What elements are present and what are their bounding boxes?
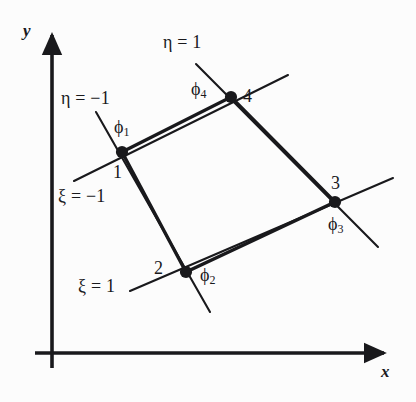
phi-subscript-3: 3 — [337, 222, 343, 236]
phi-label-1: ϕ1 — [114, 118, 129, 138]
element-nodes — [116, 91, 341, 278]
node-number-2: 2 — [154, 259, 163, 277]
xi-plus-one-line — [130, 178, 393, 291]
phi-label-4: ϕ4 — [191, 80, 206, 100]
phi-subscript-2: 2 — [209, 273, 215, 287]
figure-canvas: y x η = −1 ξ = −1 η = 1 ξ = 1 1 2 3 4 ϕ1… — [0, 0, 416, 402]
node-number-4: 4 — [243, 87, 252, 105]
node-number-3: 3 — [331, 174, 340, 192]
phi-subscript-4: 4 — [200, 87, 206, 101]
eta-minus-one-label: η = −1 — [61, 89, 110, 107]
element-outline — [122, 97, 335, 272]
y-axis-label: y — [23, 22, 31, 39]
node-marker-2 — [180, 266, 192, 278]
node-marker-1 — [116, 146, 128, 158]
phi-label-2: ϕ2 — [200, 266, 215, 286]
quadrilateral-element — [122, 97, 335, 272]
phi-label-3: ϕ3 — [328, 215, 343, 235]
xi-minus-one-label: ξ = −1 — [58, 187, 106, 205]
node-marker-4 — [225, 91, 237, 103]
eta-plus-one-label: η = 1 — [163, 33, 202, 51]
phi-subscript-1: 1 — [123, 125, 129, 139]
x-axis-label: x — [381, 363, 390, 380]
node-number-1: 1 — [113, 163, 122, 181]
xi-plus-one-label: ξ = 1 — [78, 277, 115, 295]
node-marker-3 — [329, 196, 341, 208]
